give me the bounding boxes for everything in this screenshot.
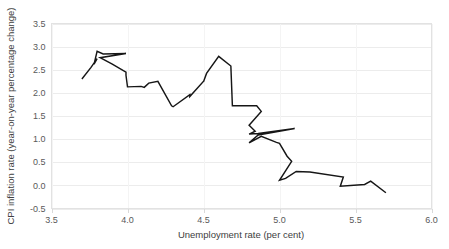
y-tick-label-2.0: 2.0 <box>33 88 46 98</box>
x-tick-label-4.0: 4.0 <box>121 215 134 225</box>
y-tick-label-2.5: 2.5 <box>33 65 46 75</box>
y-tick-label--0.5: -0.5 <box>30 204 46 214</box>
y-tick-label-0.0: 0.0 <box>33 181 46 191</box>
phillips-curve-chart: -0.50.00.51.01.52.02.53.03.5 3.54.04.55.… <box>0 0 449 249</box>
x-tick-label-5.5: 5.5 <box>349 215 362 225</box>
y-tick-label-1.0: 1.0 <box>33 134 46 144</box>
y-tick-label-3.0: 3.0 <box>33 42 46 52</box>
x-tick-label-4.5: 4.5 <box>197 215 210 225</box>
y-tick-label-0.5: 0.5 <box>33 157 46 167</box>
y-tick-label-3.5: 3.5 <box>33 19 46 29</box>
x-tick-label-3.5: 3.5 <box>45 215 58 225</box>
x-tick-label-6.0: 6.0 <box>425 215 438 225</box>
chart-background <box>0 0 449 249</box>
chart-canvas: -0.50.00.51.01.52.02.53.03.5 3.54.04.55.… <box>0 0 449 249</box>
y-tick-label-1.5: 1.5 <box>33 111 46 121</box>
y-tick-labels: -0.50.00.51.01.52.02.53.03.5 <box>30 19 46 214</box>
y-axis-title: CPI inflation rate (year-on-year percent… <box>5 7 16 224</box>
x-axis-title: Unemployment rate (per cent) <box>178 229 304 240</box>
x-tick-label-5.0: 5.0 <box>273 215 286 225</box>
